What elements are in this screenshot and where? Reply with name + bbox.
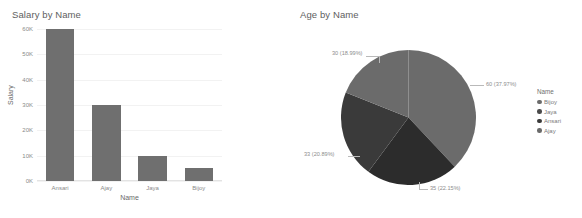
bar-chart-y-tick-label: 0K <box>26 178 33 184</box>
bar-chart-x-tick-label: Jaya <box>146 185 159 191</box>
pie-leader-line-4b <box>419 182 420 189</box>
legend-item[interactable]: Ansari <box>537 118 582 124</box>
legend-item-label: Jaya <box>544 109 557 115</box>
bar-chart-x-tick-label: Ansari <box>52 185 69 191</box>
bar-chart-y-tick-label: 40K <box>22 77 33 83</box>
bar-chart-y-tick-label: 20K <box>22 127 33 133</box>
bar-chart-x-tick-label: Bijoy <box>192 185 205 191</box>
pie-chart-legend: Name BijoyJayaAnsariAjay <box>537 88 582 137</box>
bar-chart-bar[interactable] <box>92 105 121 181</box>
legend-swatch-icon <box>537 100 542 105</box>
legend-title: Name <box>537 88 582 95</box>
legend-item[interactable]: Jaya <box>537 109 582 115</box>
bar-chart-y-tick-label: 30K <box>22 102 33 108</box>
bar-chart-y-axis-label: Salary <box>7 85 14 105</box>
legend-item-label: Bijoy <box>544 99 557 105</box>
pie-leader-line-4 <box>419 189 428 190</box>
bar-chart-plot-area: 60K50K40K30K20K10K0K AnsariAjayJayaBijoy <box>37 29 222 181</box>
legend-item[interactable]: Bijoy <box>537 99 582 105</box>
pie-leader-line-1 <box>366 56 379 57</box>
legend-swatch-icon <box>537 119 542 124</box>
bar-chart-x-axis-label: Name <box>37 194 222 201</box>
legend-item[interactable]: Ajay <box>537 128 582 134</box>
legend-item-label: Ansari <box>544 118 561 124</box>
bar-chart-y-tick-label: 60K <box>22 26 33 32</box>
pie-slice-label-ajay: 30 (18.99%) <box>332 50 362 56</box>
pie-leader-line-3 <box>348 156 360 157</box>
pie-chart-title: Age by Name <box>300 9 359 20</box>
bar-chart-panel: Salary by Name Salary 60K50K40K30K20K10K… <box>0 0 290 218</box>
pie-slice-label-jaya: 35 (22.15%) <box>430 185 460 191</box>
legend-item-label: Ajay <box>544 128 556 134</box>
pie-slice-label-ansari: 33 (20.89%) <box>304 151 334 157</box>
bar-chart-y-tick-label: 10K <box>22 153 33 159</box>
pie-leader-line-2 <box>470 85 484 86</box>
pie-chart-panel: Age by Name 30 (18.99%) 60 (37.97%) 33 (… <box>290 0 582 218</box>
bar-chart-bar[interactable] <box>185 168 214 181</box>
pie-leader-line-1b <box>379 56 380 63</box>
legend-swatch-icon <box>537 109 542 114</box>
legend-swatch-icon <box>537 128 542 133</box>
bar-chart-y-tick-label: 50K <box>22 51 33 57</box>
pie-slice-label-bijoy: 60 (37.97%) <box>486 81 516 87</box>
bar-chart-gridline <box>37 181 222 182</box>
pie-chart-svg <box>341 50 476 185</box>
bar-chart-x-tick-label: Ajay <box>101 185 113 191</box>
bar-chart-title: Salary by Name <box>12 9 81 20</box>
bar-chart-bar[interactable] <box>138 156 167 181</box>
dashboard: Salary by Name Salary 60K50K40K30K20K10K… <box>0 0 582 218</box>
bar-chart-bar[interactable] <box>46 29 75 181</box>
pie-chart-plot-area <box>341 50 476 185</box>
